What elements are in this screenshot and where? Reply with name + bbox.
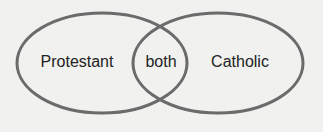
catholic-label: Catholic: [211, 53, 269, 71]
protestant-label: Protestant: [41, 53, 114, 71]
venn-diagram: Protestant both Catholic: [0, 0, 323, 132]
both-label: both: [145, 53, 176, 71]
